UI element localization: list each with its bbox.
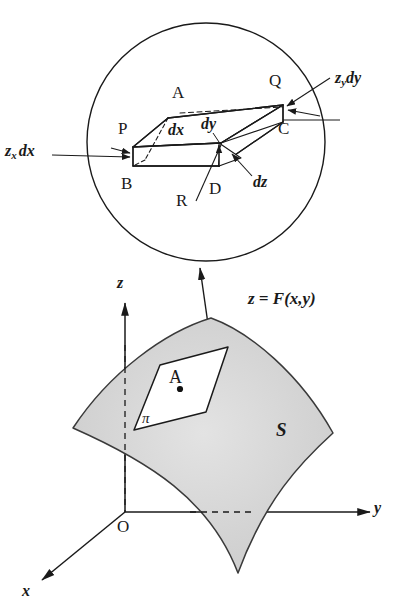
zx-differential: dx	[19, 142, 35, 159]
label-surface-equation: z = F(x,y)	[248, 290, 316, 307]
label-vertex-P: P	[118, 120, 127, 137]
label-vertex-Q: Q	[269, 72, 281, 89]
label-dx: dx	[168, 122, 184, 138]
label-vertex-D: D	[209, 180, 221, 197]
zy-differential: dy	[346, 69, 361, 86]
label-zx-dx: zxdx	[5, 143, 35, 161]
label-origin-O: O	[117, 518, 129, 535]
label-zy-dy: zydy	[335, 70, 361, 88]
label-vertex-B: B	[121, 175, 132, 192]
label-point-A: A	[169, 368, 182, 386]
label-dy: dy	[201, 116, 216, 132]
label-vertex-C: C	[278, 120, 289, 137]
x-axis	[42, 512, 125, 580]
label-axis-z: z	[117, 275, 123, 291]
label-dz: dz	[253, 174, 267, 190]
label-axis-x: x	[22, 583, 30, 599]
figure-vector-graphics	[0, 0, 399, 615]
label-plane-pi: π	[142, 411, 150, 426]
label-surface-S: S	[276, 420, 287, 439]
zx-subscript: x	[11, 149, 16, 161]
label-axis-y: y	[374, 500, 381, 516]
label-vertex-R: R	[176, 192, 187, 209]
figure-container: P A Q C B D R dx dy dz zxdx zydy z = F(x…	[0, 0, 399, 615]
label-vertex-A: A	[172, 84, 184, 101]
